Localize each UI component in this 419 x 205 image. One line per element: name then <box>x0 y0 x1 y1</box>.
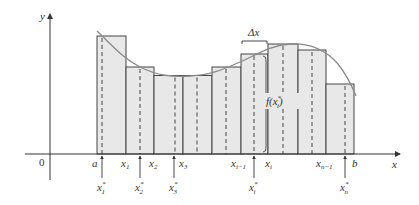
label-xi: xi <box>264 157 272 171</box>
label-x3-star: x*3 <box>168 180 178 196</box>
sample-labels: x*1 x*2 x*3 x*i x*n <box>96 180 349 196</box>
sample-point-arrows <box>102 156 345 178</box>
label-b: b <box>352 157 358 169</box>
riemann-rectangle-3 <box>154 76 183 155</box>
x-axis-label: x <box>391 158 397 170</box>
label-xi-star: x*i <box>248 180 258 196</box>
delta-x-bracket: Δx <box>242 26 267 44</box>
partition-labels: a x1 x2 x3 xi−1 xi xn−1 b <box>92 157 358 171</box>
delta-x-label: Δx <box>247 26 259 38</box>
riemann-rectangle-9 <box>326 84 354 154</box>
label-x1-star: x*1 <box>96 180 106 196</box>
label-xi-minus-1: xi−1 <box>230 157 246 171</box>
diagram-canvas: y x 0 Δx f(x*i) a x1 x2 x3 xi−1 xi xn−1 … <box>0 0 419 205</box>
label-a: a <box>92 157 98 169</box>
label-xn-minus-1: xn−1 <box>315 157 333 171</box>
label-x2-star: x*2 <box>134 180 144 196</box>
riemann-rectangle-6 <box>241 54 268 154</box>
riemann-sum-diagram: y x 0 Δx f(x*i) a x1 x2 x3 xi−1 xi xn−1 … <box>0 0 419 205</box>
label-x1: x1 <box>120 157 129 171</box>
y-axis-label: y <box>39 10 45 22</box>
riemann-rectangle-1 <box>97 36 126 154</box>
label-x2: x2 <box>148 157 158 171</box>
origin-label: 0 <box>39 156 45 168</box>
riemann-rectangles <box>97 36 354 154</box>
label-x3: x3 <box>178 157 188 171</box>
label-xn-star: x*n <box>339 180 349 196</box>
